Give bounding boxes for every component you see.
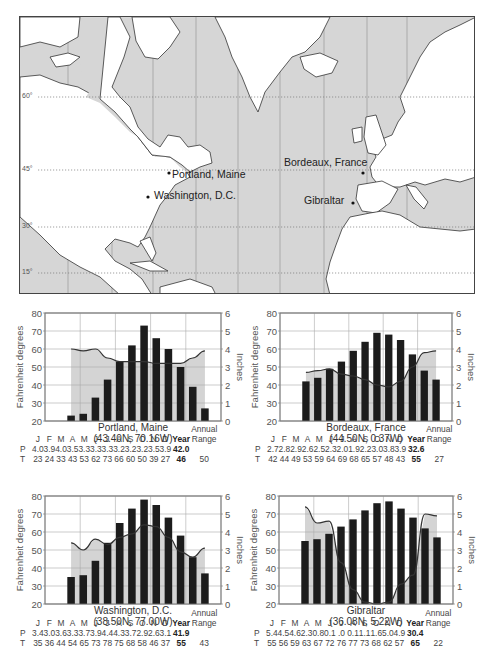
svg-text:4: 4 [457,527,462,538]
svg-text:0: 0 [457,599,462,610]
svg-text:Inches: Inches [467,536,478,564]
temperature-bar [421,528,428,604]
temperature-bar [325,534,332,604]
temperature-bar [385,501,392,604]
svg-text:20: 20 [265,599,276,610]
svg-text:70: 70 [265,509,276,520]
svg-text:3: 3 [457,545,462,556]
precipitation-row: P5.44.54.62.30.80.1.00.11.11.65.04.930.4 [254,628,492,638]
svg-text:1: 1 [457,581,462,592]
svg-text:2: 2 [457,563,462,574]
temperature-bar [313,539,320,604]
temperature-bar [433,537,440,604]
temperature-row: T5556596367727677736862576522 [254,638,492,648]
svg-text:6: 6 [457,491,462,502]
climate-table: AnnualJFMAMJJASONDYearRangeP5.44.54.62.3… [254,618,492,648]
svg-text:Fahrenheit degrees: Fahrenheit degrees [248,509,259,592]
svg-text:40: 40 [265,563,276,574]
temperature-bar [397,509,404,604]
svg-text:80: 80 [265,491,276,502]
annual-label: Annual [425,608,451,618]
svg-text:30: 30 [265,581,276,592]
temperature-bar [361,510,368,604]
month-header-row: JFMAMJJASONDYearRange [254,618,492,628]
svg-text:5: 5 [457,509,462,520]
climograph: 203040506070800123456Fahrenheit degreesI… [0,0,492,664]
svg-text:60: 60 [265,527,276,538]
svg-text:50: 50 [265,545,276,556]
temperature-bar [301,541,308,604]
temperature-bar [409,518,416,604]
temperature-bar [373,503,380,604]
